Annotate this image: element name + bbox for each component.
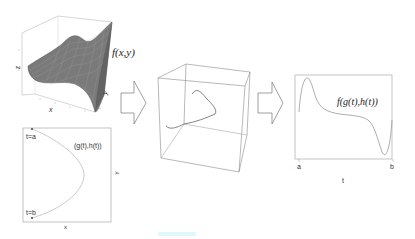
line-x-axis-label: t xyxy=(342,177,344,184)
cube-plot xyxy=(158,64,250,172)
surface-function-label: f(x,y) xyxy=(112,46,135,58)
arrow-right-2-icon xyxy=(258,82,283,124)
line-tick-a: a xyxy=(297,163,301,170)
path-x-axis-label: x xyxy=(64,224,67,230)
path-y-axis-label: y xyxy=(113,172,119,175)
surface-z-axis-label: z xyxy=(14,66,21,70)
surface-plot xyxy=(18,16,112,112)
surface-x-axis-label: x xyxy=(49,106,53,113)
highlight-artifact xyxy=(158,232,196,236)
path-curve-label: (g(t),h(t)) xyxy=(74,142,102,149)
path-end-label: t=b xyxy=(26,209,36,216)
line-tick-b: b xyxy=(390,163,394,170)
line-plot xyxy=(295,75,393,162)
path-start-label: t=a xyxy=(26,133,36,140)
line-curve-label: f(g(t),h(t)) xyxy=(337,96,378,107)
arrow-right-1-icon xyxy=(121,81,146,124)
diagram-canvas xyxy=(0,0,415,239)
